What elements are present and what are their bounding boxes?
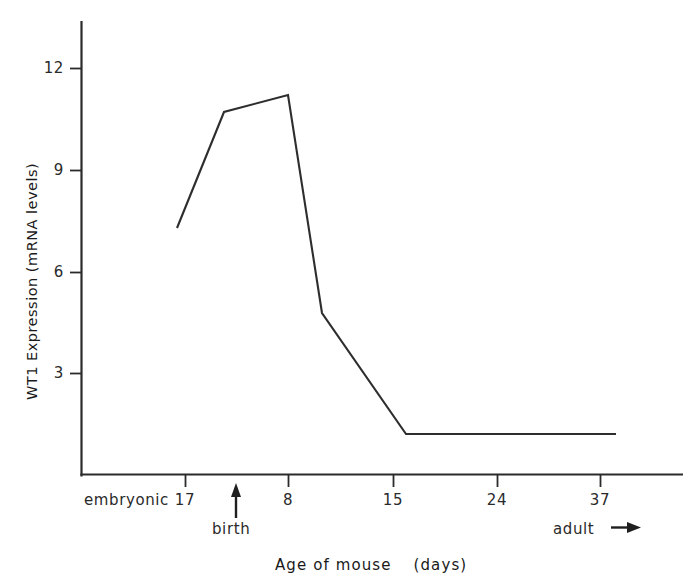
- y-tick-label-9: 9: [24, 161, 64, 179]
- birth-label: birth: [212, 520, 250, 538]
- adult-label: adult: [553, 520, 594, 538]
- chart-figure: WT1 Expression (mRNA levels) 12 9 6 3 em…: [0, 0, 683, 579]
- embryonic-label: embryonic: [84, 491, 169, 509]
- x-tick-label-15: 15: [371, 491, 415, 509]
- x-axis-title: Age of mouse(days): [275, 556, 467, 574]
- x-tick-label-37: 37: [578, 491, 622, 509]
- y-tick-label-12: 12: [24, 59, 64, 77]
- x-axis-title-unit: (days): [414, 556, 468, 574]
- y-tick-label-3: 3: [24, 364, 64, 382]
- y-tick-label-6: 6: [24, 263, 64, 281]
- x-tick-label-24: 24: [475, 491, 519, 509]
- x-tick-label-17: 17: [163, 491, 207, 509]
- x-axis-title-main: Age of mouse: [275, 556, 392, 574]
- birth-arrow-icon: [231, 483, 241, 518]
- data-line-wt1-expression: [177, 95, 616, 434]
- adult-arrow-icon: [611, 522, 641, 533]
- x-tick-label-8: 8: [266, 491, 310, 509]
